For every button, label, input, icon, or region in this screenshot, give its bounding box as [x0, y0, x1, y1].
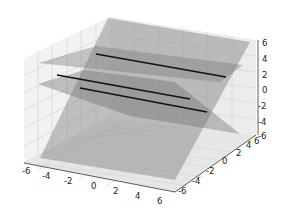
svg-text:-2: -2 — [258, 101, 266, 111]
svg-text:0: 0 — [91, 181, 96, 191]
svg-text:0: 0 — [262, 85, 267, 95]
svg-text:4: 4 — [135, 191, 140, 201]
svg-text:2: 2 — [236, 148, 241, 158]
svg-text:-6: -6 — [22, 166, 30, 176]
svg-text:2: 2 — [262, 70, 267, 80]
svg-text:-6: -6 — [258, 131, 266, 141]
svg-text:6: 6 — [262, 38, 267, 48]
svg-text:2: 2 — [113, 186, 118, 196]
svg-text:-6: -6 — [178, 186, 186, 196]
3d-plot: -6 -4 -2 0 2 4 6 -6 -4 -2 0 2 4 6 6 4 2 … — [0, 0, 284, 214]
svg-text:6: 6 — [157, 196, 162, 206]
svg-text:-4: -4 — [42, 171, 50, 181]
z-axis-ticks: 6 4 2 0 -2 -4 -6 — [258, 38, 267, 141]
svg-text:-4: -4 — [258, 117, 266, 127]
svg-text:4: 4 — [246, 140, 251, 150]
svg-text:0: 0 — [222, 156, 227, 166]
svg-text:-4: -4 — [192, 176, 200, 186]
svg-text:-2: -2 — [206, 166, 214, 176]
svg-text:-2: -2 — [64, 176, 72, 186]
svg-text:4: 4 — [262, 54, 267, 64]
